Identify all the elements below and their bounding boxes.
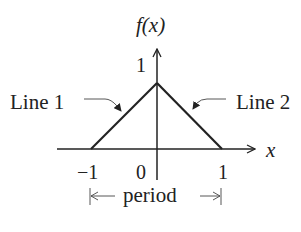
- line-2-pointer-arrow: [193, 99, 226, 109]
- y-tick-label-1: 1: [136, 54, 146, 76]
- period-label: period: [123, 183, 177, 207]
- line-1: [91, 83, 157, 149]
- triangular-wave-figure: f(x) 1 Line 1 Line 2 x −1 0 1 period: [0, 0, 301, 232]
- line-2: [157, 83, 222, 149]
- line-1-pointer-arrow: [84, 99, 121, 111]
- x-axis-label: x: [265, 138, 276, 162]
- x-tick-label-neg1: −1: [77, 161, 98, 183]
- x-tick-label-1: 1: [218, 161, 228, 183]
- y-axis-label: f(x): [136, 13, 165, 37]
- line-1-label: Line 1: [10, 90, 64, 114]
- x-tick-label-0: 0: [136, 161, 146, 183]
- line-2-label: Line 2: [236, 90, 290, 114]
